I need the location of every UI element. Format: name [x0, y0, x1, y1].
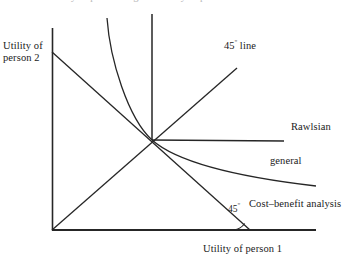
general-curve-label: general [270, 155, 302, 167]
angle-measure-number: 45 [228, 204, 238, 214]
rawlsian-curve-label: Rawlsian [291, 121, 331, 133]
forty-five-degree-line-label: 45º line [224, 40, 256, 52]
forty-five-degree-line-label-suffix: line [237, 40, 256, 51]
cost-benefit-analysis-label: Cost–benefit analysis [249, 198, 341, 210]
y-axis-label: Utility of person 2 [3, 40, 65, 64]
angle-measure-label: 45º [228, 203, 240, 215]
rawlsian-horizontal-branch [152, 140, 284, 141]
x-axis-label: Utility of person 1 [203, 243, 282, 255]
forty-five-degree-line [52, 68, 237, 230]
forty-five-degree-line-label-number: 45 [224, 40, 235, 51]
social-welfare-indifference-diagram: Utility of person 2 Utility of person 1 … [0, 0, 357, 266]
angle-degree-symbol-icon: º [238, 201, 240, 210]
